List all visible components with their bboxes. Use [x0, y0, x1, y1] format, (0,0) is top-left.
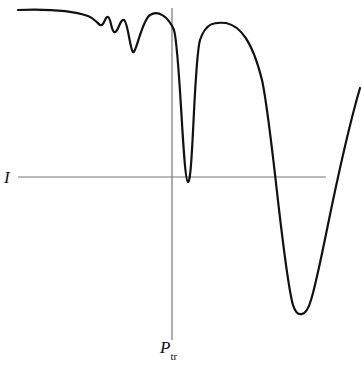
transition-pressure-label: Ptr [160, 338, 177, 359]
diagram-svg [0, 0, 362, 366]
intensity-label: I [4, 168, 10, 188]
diagram-canvas: I Ptr [0, 0, 362, 366]
absorption-curve [18, 10, 360, 315]
pressure-subscript: tr [170, 350, 177, 362]
pressure-symbol: P [160, 338, 170, 357]
